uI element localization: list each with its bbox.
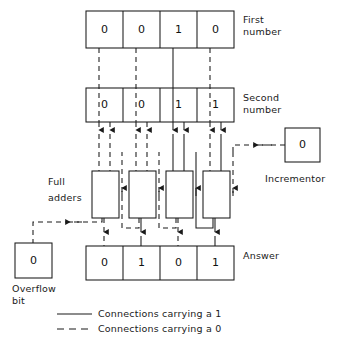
- legend-item-dashed-text: Connections carrying a 0: [98, 323, 221, 335]
- first-number-label-line2: number: [243, 26, 281, 38]
- answer-bit: 1: [123, 257, 160, 268]
- second-number-bit: 0: [123, 99, 160, 110]
- overflow-label-line2: bit: [12, 295, 25, 307]
- first-number-bit: 0: [197, 24, 234, 35]
- first-number-bit: 0: [123, 24, 160, 35]
- first-number-label-line1: First: [243, 14, 264, 26]
- second-number-bit: 1: [160, 99, 197, 110]
- full-adders-label-line2: adders: [48, 192, 82, 204]
- overflow-label-line1: Overflow: [12, 283, 56, 295]
- wire-incrementor-to-adder-3: [233, 145, 285, 196]
- full-adder-boxes: [92, 171, 230, 218]
- answer-bit: 0: [86, 257, 123, 268]
- incrementor-value: 0: [285, 139, 320, 150]
- first-number-bit: 1: [160, 24, 197, 35]
- answer-bit: 1: [197, 257, 234, 268]
- legend-item-solid-text: Connections carrying a 1: [98, 308, 221, 320]
- incrementor-label: Incrementor: [265, 173, 325, 185]
- full-adders-label-line1: Full: [48, 176, 65, 188]
- second-number-label-line1: Second: [243, 92, 279, 104]
- wire-carry-0-to-overflow: [33, 218, 102, 243]
- overflow-value: 0: [15, 255, 52, 266]
- answer-label: Answer: [243, 250, 279, 262]
- second-number-bit: 1: [197, 99, 234, 110]
- second-number-bit: 0: [86, 99, 123, 110]
- first-number-bit: 0: [86, 24, 123, 35]
- adder-diagram: 0 0 1 0 First number 0 0 1 1 Second numb…: [0, 0, 346, 350]
- second-number-label-line2: number: [243, 104, 281, 116]
- answer-bit: 0: [160, 257, 197, 268]
